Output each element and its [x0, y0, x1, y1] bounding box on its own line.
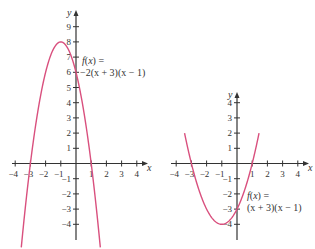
y-axis-label: y	[66, 7, 72, 18]
y-tick-label: −2	[61, 189, 71, 199]
y-tick-label: 2	[67, 128, 72, 138]
x-tick-label: 4	[296, 169, 301, 179]
x-tick-label: 2	[265, 169, 270, 179]
chart-figure: xy−4−3−2−11234−4−3−2−1123456789f(x) =−2(…	[0, 0, 315, 249]
y-tick-label: 8	[67, 37, 72, 47]
x-tick-label: −2	[39, 169, 49, 179]
y-tick-label: −1	[61, 174, 71, 184]
function-label-line2: −2(x + 3)(x − 1)	[80, 67, 145, 79]
plot-downward-parabola: xy−4−3−2−11234−4−3−2−1123456789f(x) =−2(…	[8, 7, 152, 247]
y-tick-label: −2	[222, 189, 232, 199]
x-axis-label: x	[146, 162, 152, 173]
x-tick-label: 4	[135, 169, 140, 179]
plot-upward-parabola: xy−4−3−2−11234−4−3−2−11234f(x) =(x + 3)(…	[169, 89, 313, 240]
y-axis-arrow-icon	[235, 92, 240, 98]
x-tick-label: 3	[119, 169, 124, 179]
y-tick-label: −3	[61, 204, 71, 214]
y-tick-label: −1	[222, 174, 232, 184]
y-tick-label: 4	[228, 98, 233, 108]
y-tick-label: 6	[67, 67, 72, 77]
y-tick-label: −4	[61, 219, 71, 229]
function-label-line2: (x + 3)(x − 1)	[247, 202, 302, 214]
y-tick-label: −3	[222, 204, 232, 214]
x-tick-label: −4	[169, 169, 179, 179]
y-tick-label: 2	[228, 128, 233, 138]
y-tick-label: 3	[228, 113, 233, 123]
function-label-line1: f(x) =	[247, 190, 269, 202]
x-tick-label: 3	[280, 169, 285, 179]
y-tick-label: 1	[67, 143, 72, 153]
x-tick-label: 2	[104, 169, 109, 179]
function-label-line1: f(x) =	[82, 55, 104, 67]
y-axis-arrow-icon	[74, 10, 79, 16]
x-tick-label: −4	[8, 169, 18, 179]
y-tick-label: 4	[67, 98, 72, 108]
y-tick-label: 3	[67, 113, 72, 123]
x-axis-label: x	[307, 162, 313, 173]
y-tick-label: 5	[67, 83, 72, 93]
y-tick-label: 1	[228, 143, 233, 153]
y-tick-label: 9	[67, 22, 72, 32]
chart-canvas: xy−4−3−2−11234−4−3−2−1123456789f(x) =−2(…	[0, 0, 315, 249]
x-tick-label: −2	[200, 169, 210, 179]
